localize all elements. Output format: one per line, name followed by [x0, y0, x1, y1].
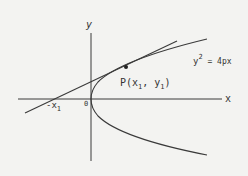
parabola-tangent-diagram: y x 0 P(x1, y1) -x1 y2 = 4px	[0, 0, 248, 176]
point-p	[124, 65, 128, 69]
parabola-curve	[91, 39, 207, 155]
intercept-label: -x1	[46, 100, 61, 113]
x-axis-label: x	[225, 93, 231, 104]
origin-label: 0	[84, 100, 88, 108]
equation-label: y2 = 4px	[193, 53, 232, 66]
y-axis-label: y	[85, 19, 92, 30]
point-p-label: P(x1, y1)	[120, 77, 171, 91]
